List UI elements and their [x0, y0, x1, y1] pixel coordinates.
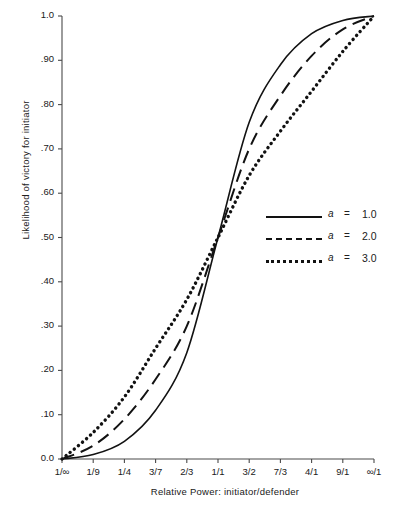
y-tick-label: .80: [20, 98, 54, 109]
legend-equals: =: [344, 230, 350, 241]
chart-figure: Likelihood of victory for initiator Rela…: [0, 0, 394, 510]
legend-symbol: a: [328, 208, 334, 219]
y-tick-label: .70: [20, 142, 54, 153]
legend-entry-2: a = 2.0: [266, 228, 390, 250]
chart-legend: a = 1.0 a = 2.0 a = 3.0: [266, 206, 390, 276]
y-tick-label: 0.0: [20, 452, 54, 463]
legend-equals: =: [344, 252, 350, 263]
legend-line-sample-dotted: [266, 260, 322, 263]
y-tick-label: .10: [20, 408, 54, 419]
y-tick-label: .20: [20, 363, 54, 374]
legend-equals: =: [344, 208, 350, 219]
y-tick-label: .30: [20, 319, 54, 330]
legend-entry-1: a = 1.0: [266, 206, 390, 228]
legend-value: 2.0: [362, 230, 377, 242]
y-tick-label: 1.0: [20, 9, 54, 20]
legend-entry-3: a = 3.0: [266, 250, 390, 272]
legend-line-sample-solid: [266, 216, 322, 218]
x-tick-label: ∞/1: [352, 466, 394, 477]
legend-line-sample-dashed: [266, 238, 322, 240]
y-tick-label: .90: [20, 53, 54, 64]
legend-value: 1.0: [362, 208, 377, 220]
y-tick-label: .60: [20, 186, 54, 197]
y-tick-label: .50: [20, 231, 54, 242]
legend-symbol: a: [328, 230, 334, 241]
legend-value: 3.0: [362, 252, 377, 264]
y-tick-label: .40: [20, 275, 54, 286]
x-axis-title: Relative Power: initiator/defender: [60, 486, 390, 497]
legend-symbol: a: [328, 252, 334, 263]
